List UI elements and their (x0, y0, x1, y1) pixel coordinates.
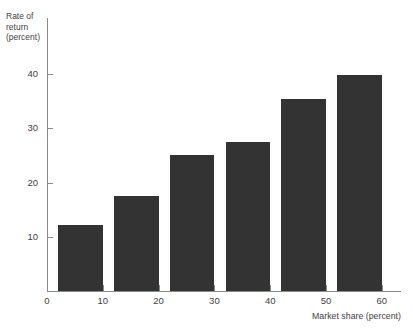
y-axis-title-line-3: (percent) (6, 32, 52, 43)
y-axis-title-line-2: return (6, 22, 52, 33)
x-tick-mark (382, 285, 383, 291)
x-tick-label: 30 (199, 296, 229, 306)
y-tick-label: 20 (12, 178, 38, 188)
x-tick-mark (159, 285, 160, 291)
bar (281, 99, 326, 291)
cropped-caption-remnant (0, 0, 413, 4)
x-tick-mark (103, 285, 104, 291)
bar (337, 75, 382, 291)
x-axis-line (47, 291, 401, 292)
y-tick-label: 40 (12, 69, 38, 79)
x-tick-label: 0 (32, 296, 62, 306)
x-tick-mark (270, 285, 271, 291)
x-tick-label: 40 (255, 296, 285, 306)
bar (114, 196, 159, 291)
y-tick-mark (48, 237, 53, 238)
x-tick-mark (326, 285, 327, 291)
x-tick-label: 20 (144, 296, 174, 306)
y-tick-mark (48, 74, 53, 75)
x-tick-label: 60 (367, 296, 397, 306)
y-axis-title-line-1: Rate of (6, 11, 52, 22)
bar (226, 142, 271, 291)
x-tick-label: 10 (88, 296, 118, 306)
y-tick-label: 30 (12, 123, 38, 133)
bar (58, 225, 103, 291)
x-tick-mark (214, 285, 215, 291)
y-axis-title: Rate of return (percent) (6, 11, 52, 43)
y-tick-mark (48, 128, 53, 129)
rate-of-return-vs-market-share-bar-chart: Rate of return (percent) 10203040 010203… (0, 0, 413, 330)
y-axis-line (47, 18, 48, 292)
y-tick-label: 10 (12, 232, 38, 242)
x-tick-label: 50 (311, 296, 341, 306)
x-axis-title: Market share (percent) (312, 311, 401, 321)
y-tick-mark (48, 183, 53, 184)
bar (170, 155, 215, 291)
